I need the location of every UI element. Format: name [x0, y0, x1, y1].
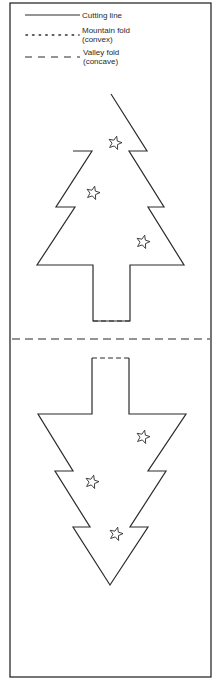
star-icon — [137, 430, 150, 443]
star-icon — [109, 136, 122, 149]
star-icon — [110, 527, 123, 540]
card-border — [10, 3, 211, 677]
legend-valley-fold-label: Valley fold — [83, 48, 119, 57]
bottom-tree — [38, 358, 186, 585]
legend-valley-fold-sublabel: (concave) — [83, 57, 118, 66]
legend: Cutting line Mountain fold (convex) Vall… — [25, 11, 130, 66]
bottom-tree-stars — [86, 430, 150, 540]
tree-card-diagram: Cutting line Mountain fold (convex) Vall… — [0, 0, 223, 692]
legend-mountain-fold-sublabel: (convex) — [82, 35, 113, 44]
legend-mountain-fold-label: Mountain fold — [82, 26, 130, 35]
top-tree-stars — [87, 136, 150, 248]
top-tree-cutting-outline — [37, 94, 184, 321]
star-icon — [137, 235, 150, 248]
star-icon — [87, 186, 100, 199]
top-tree — [37, 94, 184, 321]
bottom-tree-cutting-outline — [38, 358, 186, 585]
star-icon — [86, 475, 99, 488]
legend-cutting-line-label: Cutting line — [82, 11, 123, 20]
